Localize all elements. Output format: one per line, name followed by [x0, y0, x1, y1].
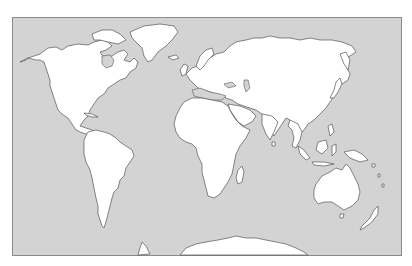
landmass-sri-lanka	[272, 142, 275, 146]
world-map	[0, 0, 412, 266]
landmass-tasmania	[340, 214, 344, 218]
